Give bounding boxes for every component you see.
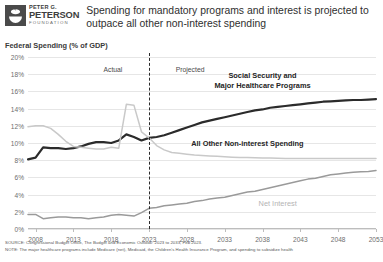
- projection-divider-line: [149, 53, 150, 229]
- x-axis-tick: [376, 229, 377, 232]
- page-title: Spending for mandatory programs and inte…: [86, 4, 377, 31]
- page-header: PETER G. PETERSON FOUNDATION Spending fo…: [0, 0, 383, 34]
- y-axis-label: 6%: [2, 174, 24, 181]
- x-axis-tick: [111, 229, 112, 232]
- x-axis-tick: [338, 229, 339, 232]
- brand-line-2: PETERSON: [29, 11, 79, 20]
- y-axis-label: 14%: [2, 105, 24, 112]
- y-axis-label: 16%: [2, 88, 24, 95]
- x-axis-tick: [36, 229, 37, 232]
- peterson-bowl-icon: [5, 5, 26, 26]
- y-axis-label: 12%: [2, 122, 24, 129]
- x-axis-tick: [300, 229, 301, 232]
- series-label: All Other Non-interest Spending: [191, 139, 304, 149]
- y-axis-label: 18%: [2, 71, 24, 78]
- series-label: Social Security andMajor Healthcare Prog…: [214, 71, 310, 90]
- brand-line-3: FOUNDATION: [29, 21, 79, 25]
- gridline: [28, 229, 376, 230]
- annotation-projected: Projected: [176, 66, 205, 73]
- footer-note: NOTE: The major healthcare programs incl…: [5, 247, 379, 254]
- series-line: [28, 99, 376, 159]
- x-axis-tick: [149, 229, 150, 232]
- x-axis-tick: [263, 229, 264, 232]
- annotation-actual: Actual: [103, 66, 122, 73]
- y-axis-label: 10%: [2, 140, 24, 147]
- y-axis-label: 4%: [2, 191, 24, 198]
- chart-plot: 0%2%4%6%8%10%12%14%16%18%20% 20082013201…: [28, 57, 376, 229]
- brand-logo: PETER G. PETERSON FOUNDATION: [5, 4, 85, 26]
- chart-area: 0%2%4%6%8%10%12%14%16%18%20% 20082013201…: [0, 52, 383, 238]
- y-axis-label: 20%: [2, 54, 24, 61]
- series-line: [28, 171, 376, 219]
- x-axis-tick: [225, 229, 226, 232]
- x-axis-tick: [73, 229, 74, 232]
- y-axis-label: 8%: [2, 157, 24, 164]
- y-axis-title: Federal Spending (% of GDP): [5, 41, 108, 50]
- series-line: [28, 104, 376, 158]
- series-label: Net Interest: [259, 199, 297, 209]
- y-axis-label: 0%: [2, 226, 24, 233]
- chart-footer: SOURCE: Congressional Budget Office, The…: [5, 240, 379, 253]
- x-axis-tick: [187, 229, 188, 232]
- footer-source: SOURCE: Congressional Budget Office, The…: [5, 240, 379, 247]
- y-axis-label: 2%: [2, 208, 24, 215]
